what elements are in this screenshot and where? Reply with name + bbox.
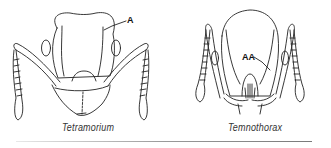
caption-tetramorium: Tetramorium [62, 122, 114, 133]
leader-line-aa [254, 57, 270, 70]
temnothorax-head-drawing [196, 10, 304, 114]
leader-line-a [104, 21, 126, 30]
bottom-rule-divider [16, 141, 312, 142]
label-aa: AA [242, 52, 255, 62]
label-a: A [127, 15, 134, 25]
tetramorium-head-drawing [13, 13, 149, 120]
caption-temnothorax: Temnothorax [228, 122, 282, 133]
